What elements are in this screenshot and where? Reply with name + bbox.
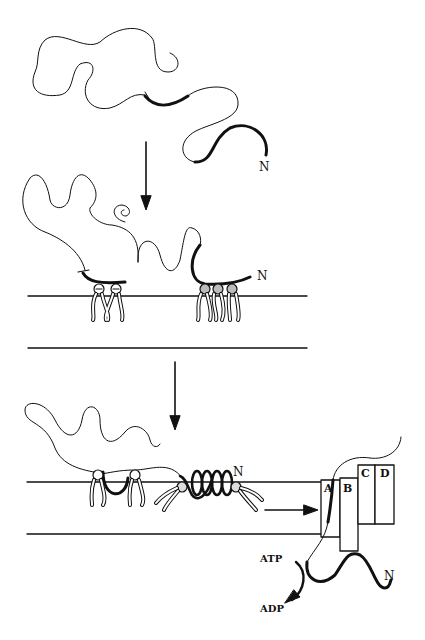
stage2-protein bbox=[23, 175, 250, 284]
arrow-down-2 bbox=[170, 362, 180, 430]
exit-n-terminus-label: N bbox=[384, 570, 395, 582]
membrane-insertion-diagram: N N N A B C D N ATP ADP bbox=[0, 0, 425, 640]
stage1-unfolded-protein bbox=[33, 28, 267, 162]
translocon-subunit-b: B bbox=[343, 483, 352, 494]
stage2-lipids-left bbox=[93, 284, 123, 320]
stage1-n-terminus-label: N bbox=[259, 161, 270, 173]
translocon-subunit-a: A bbox=[324, 483, 333, 494]
translocon-subunit-c: C bbox=[361, 468, 370, 479]
stage3-helix bbox=[180, 471, 232, 498]
atp-hydrolysis-arrow bbox=[285, 562, 304, 603]
translocon-subunit-d: D bbox=[380, 468, 390, 479]
arrow-down-1 bbox=[141, 142, 151, 210]
stage2-lipids-right bbox=[198, 284, 239, 320]
stage3-n-terminus-label: N bbox=[233, 466, 244, 478]
stage3-protein bbox=[25, 403, 232, 498]
diagram-graphics bbox=[0, 0, 425, 640]
adp-label: ADP bbox=[260, 604, 284, 614]
stage2-membrane bbox=[28, 296, 307, 348]
atp-label: ATP bbox=[260, 554, 282, 564]
arrow-right-translocon bbox=[265, 505, 318, 515]
stage2-n-terminus-label: N bbox=[257, 270, 268, 282]
